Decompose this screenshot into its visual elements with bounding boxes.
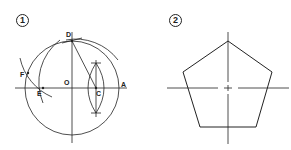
point-f (27, 72, 29, 74)
label-o: O (64, 79, 69, 86)
point-e (42, 87, 44, 89)
step-number-1: 1 (16, 14, 29, 27)
point-c (95, 87, 97, 89)
construction-drawing (0, 0, 291, 150)
point-d (71, 40, 73, 42)
label-c: C (96, 90, 101, 97)
label-e: E (37, 90, 42, 97)
label-f: F (20, 71, 24, 78)
step-number-2: 2 (169, 14, 182, 27)
arc-c-radius-cd (39, 40, 60, 103)
label-a: A (121, 81, 126, 88)
line-dc (72, 41, 96, 88)
label-d: D (66, 31, 71, 38)
diagram-canvas: 1 2 D F E O C A (0, 0, 291, 150)
pentagon (183, 41, 272, 127)
arc-c-top (66, 39, 118, 60)
